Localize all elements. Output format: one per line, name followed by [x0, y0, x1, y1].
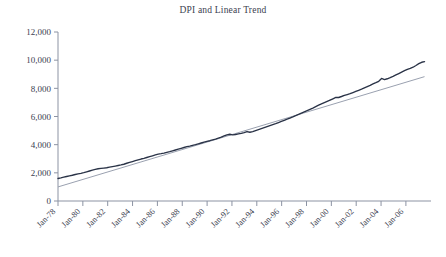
y-tick-label: 12,000	[26, 27, 51, 37]
chart-series-group	[58, 62, 425, 187]
x-tick-label: Jan-84	[109, 206, 133, 230]
x-axis: Jan-78Jan-80Jan-82Jan-84Jan-86Jan-88Jan-…	[34, 201, 431, 229]
x-tick-label: Jan-82	[84, 206, 107, 229]
dpi-line-series	[58, 62, 425, 179]
x-tick-label: Jan-04	[357, 206, 381, 230]
y-tick-label: 2,000	[31, 168, 52, 178]
y-tick-label: 0	[47, 196, 52, 206]
y-tick-label: 6,000	[31, 112, 52, 122]
x-tick-label: Jan-94	[233, 206, 257, 230]
y-tick-label: 10,000	[26, 55, 51, 65]
x-tick-label: Jan-90	[183, 206, 206, 229]
y-tick-label: 4,000	[31, 140, 52, 150]
x-tick-label: Jan-78	[34, 206, 57, 229]
trend-line-series	[58, 77, 425, 187]
x-tick-label: Jan-06	[382, 206, 405, 229]
y-axis: 02,0004,0006,0008,00010,00012,000	[26, 27, 58, 206]
x-tick-label: Jan-80	[59, 206, 82, 229]
x-tick-label: Jan-02	[333, 206, 356, 229]
y-tick-label: 8,000	[31, 84, 52, 94]
x-tick-label: Jan-92	[208, 206, 231, 229]
chart-plot-area: 02,0004,0006,0008,00010,00012,000 Jan-78…	[0, 0, 446, 257]
x-tick-label: Jan-88	[159, 206, 182, 229]
x-tick-label: Jan-96	[258, 206, 281, 229]
chart-container: DPI and Linear Trend 02,0004,0006,0008,0…	[0, 0, 446, 257]
x-tick-label: Jan-00	[308, 206, 331, 229]
x-tick-label: Jan-86	[134, 206, 157, 229]
x-tick-label: Jan-98	[283, 206, 306, 229]
